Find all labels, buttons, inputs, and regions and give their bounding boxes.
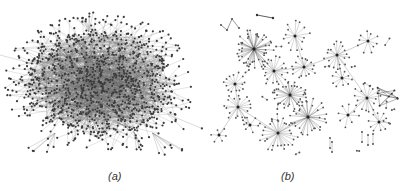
panel-a-caption: (a) <box>108 170 121 182</box>
dense-network-graph <box>0 0 205 191</box>
network-panel-a <box>0 0 205 191</box>
network-panel-b <box>205 0 411 191</box>
sparse-star-network-graph <box>205 0 411 191</box>
panel-b-caption: (b) <box>281 170 294 182</box>
